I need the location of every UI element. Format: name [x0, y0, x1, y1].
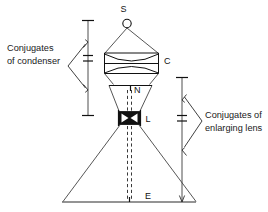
condenser-label-line2: of condenser [7, 56, 60, 66]
easel-baseline [62, 197, 196, 202]
enlarging-lens-symbol [119, 110, 141, 126]
label-easel: E [145, 191, 151, 201]
source-to-condenser-rays [105, 28, 158, 53]
enlarging-label-line1: Conjugates of [205, 110, 262, 120]
lens-to-easel-rays [63, 125, 196, 202]
label-negative: N [134, 85, 141, 95]
condenser-to-negative-rays [105, 74, 159, 85]
condenser-assembly [105, 53, 159, 74]
enlarging-lens-conjugates-dimension [176, 77, 202, 202]
condenser-conjugates-label: Conjugates of condenser [7, 43, 60, 66]
condenser-conjugates-dimension [68, 20, 94, 116]
label-condenser: C [164, 56, 171, 66]
label-lens: L [146, 114, 151, 124]
light-source-symbol [123, 19, 131, 27]
label-source: S [120, 4, 126, 14]
condenser-label-line1: Conjugates [7, 43, 54, 53]
enlarging-label-line2: enlarging lens [205, 123, 263, 133]
optical-axis-upper [128, 90, 132, 111]
diagram-canvas: S C N [0, 0, 268, 212]
optical-axis-lower [128, 126, 132, 200]
negative-plane [109, 86, 152, 92]
optical-diagram: S C N [0, 0, 268, 212]
enlarging-lens-conjugates-label: Conjugates of enlarging lens [205, 110, 263, 133]
